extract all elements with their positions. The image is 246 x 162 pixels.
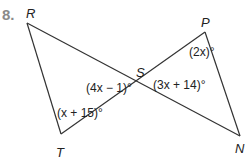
point-S-label: S — [136, 65, 145, 80]
point-N-label: N — [235, 141, 245, 156]
point-R-label: R — [26, 6, 35, 21]
angle-P-label: (2x)° — [189, 45, 215, 59]
angle-T-label: (x + 15)° — [57, 106, 103, 120]
segment-RT — [27, 23, 61, 134]
diagram: 8. R T S P N (4x − 1)° (3x + 14)° (2x)° … — [0, 0, 246, 162]
point-P-label: P — [201, 15, 210, 30]
angle-RST-label: (4x − 1)° — [86, 81, 132, 95]
problem-number: 8. — [2, 6, 15, 23]
point-T-label: T — [56, 145, 65, 160]
angle-PSN-label: (3x + 14)° — [153, 78, 206, 92]
